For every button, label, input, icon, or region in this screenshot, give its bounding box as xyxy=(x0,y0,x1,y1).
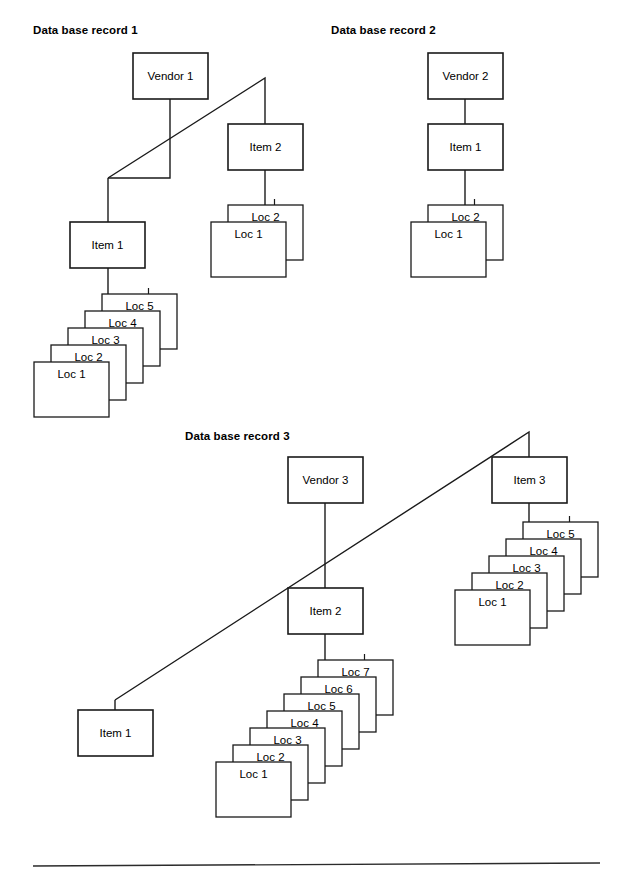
record-1-node-label-item-1: Item 1 xyxy=(92,239,124,251)
record-3-loc-stack-item-2-card-label-6: Loc 6 xyxy=(324,683,352,695)
record-2-node-label-vendor-2: Vendor 2 xyxy=(442,70,488,82)
record-3-node-label-item-2: Item 2 xyxy=(310,605,342,617)
record-1-loc-stack-item-1-card-label-3: Loc 3 xyxy=(91,334,119,346)
record-3-loc-stack-item-3-card-label-4: Loc 4 xyxy=(529,545,558,557)
record-1-loc-stack-item-1-card-label-1: Loc 1 xyxy=(57,368,85,380)
record-3-title: Data base record 3 xyxy=(185,430,290,442)
record-3-loc-stack-item-2-card-label-5: Loc 5 xyxy=(307,700,335,712)
record-1-node-label-item-2: Item 2 xyxy=(250,141,282,153)
record-1-title: Data base record 1 xyxy=(33,24,138,36)
record-1-node-label-vendor-1: Vendor 1 xyxy=(147,70,193,82)
record-1-loc-stack-item-1-card-label-2: Loc 2 xyxy=(74,351,102,363)
record-3-loc-stack-item-2-card-label-2: Loc 2 xyxy=(256,751,284,763)
record-1-loc-stack-item-2-card-label-2: Loc 2 xyxy=(251,211,279,223)
record-3-loc-stack-item-2-card-label-1: Loc 1 xyxy=(239,768,267,780)
record-3-node-label-item-1: Item 1 xyxy=(100,727,132,739)
record-1-connector-vendor-1-to-item-2 xyxy=(108,99,170,178)
record-2-node-label-item-1: Item 1 xyxy=(450,141,482,153)
diagram-page: Loc 5Loc 4Loc 3Loc 2Loc 1Loc 2Loc 1Loc 2… xyxy=(0,0,637,873)
record-1-loc-stack-item-2-card-label-1: Loc 1 xyxy=(234,228,262,240)
record-2-title: Data base record 2 xyxy=(331,24,436,36)
footer-rule xyxy=(33,863,600,866)
record-3-node-label-vendor-3: Vendor 3 xyxy=(302,474,348,486)
record-1-loc-stack-item-1-card-label-4: Loc 4 xyxy=(108,317,137,329)
database-records-diagram: Loc 5Loc 4Loc 3Loc 2Loc 1Loc 2Loc 1Loc 2… xyxy=(0,0,637,873)
record-2-loc-stack-item-1-card-label-1: Loc 1 xyxy=(434,228,462,240)
record-3-loc-stack-item-2-card-label-3: Loc 3 xyxy=(273,734,301,746)
record-3-loc-stack-item-3-card-label-5: Loc 5 xyxy=(546,528,574,540)
record-3-loc-stack-item-2-card-label-4: Loc 4 xyxy=(290,717,319,729)
record-3-loc-stack-item-3-card-label-3: Loc 3 xyxy=(512,562,540,574)
record-3-loc-stack-item-2-card-label-7: Loc 7 xyxy=(341,666,369,678)
record-3-loc-stack-item-3-card-label-2: Loc 2 xyxy=(495,579,523,591)
record-3-loc-stack-item-3-card-label-1: Loc 1 xyxy=(478,596,506,608)
record-3-node-label-item-3: Item 3 xyxy=(514,474,546,486)
record-2-loc-stack-item-1-card-label-2: Loc 2 xyxy=(451,211,479,223)
record-1-loc-stack-item-1-card-label-5: Loc 5 xyxy=(125,300,153,312)
